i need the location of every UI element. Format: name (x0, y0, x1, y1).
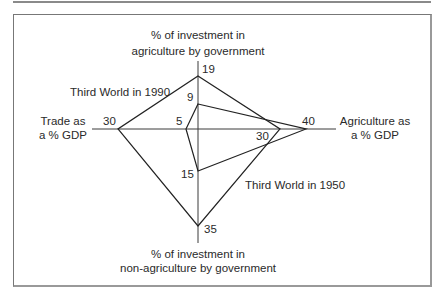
value-1990-left: 30 (103, 115, 116, 127)
value-1950-left: 5 (176, 115, 182, 127)
axis-title-bottom-line1: % of investment in (151, 248, 245, 260)
value-1950-bottom: 15 (181, 168, 194, 180)
value-1990-top: 19 (202, 63, 215, 75)
series-label-1950: Third World in 1950 (245, 179, 345, 191)
series-1990-polygon (118, 76, 280, 226)
axis-title-left-line2: a % GDP (39, 129, 87, 141)
axis-title-top-line1: % of investment in (151, 29, 245, 41)
value-1950-top: 9 (187, 91, 193, 103)
series-1950-polygon (186, 104, 306, 171)
axis-title-right-line1: Agriculture as (340, 115, 411, 127)
value-1990-bottom: 35 (204, 223, 217, 235)
series-label-1990: Third World in 1990 (70, 86, 170, 98)
axis-title-right-line2: a % GDP (351, 129, 399, 141)
value-1990-right: 30 (256, 130, 269, 142)
axis-title-bottom-line2: non-agriculture by government (120, 262, 277, 274)
radar-chart: % of investment in agriculture by govern… (0, 0, 444, 299)
value-1950-right: 40 (302, 115, 315, 127)
axis-title-left-line1: Trade as (41, 115, 86, 127)
axis-title-top-line2: agriculture by government (132, 45, 266, 57)
